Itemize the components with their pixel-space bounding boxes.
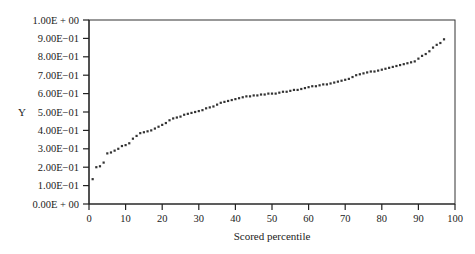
- data-point: [161, 124, 163, 126]
- data-point: [183, 114, 185, 116]
- x-tick-label: 0: [86, 213, 91, 224]
- data-point: [326, 83, 328, 85]
- y-tick-label: 9.00E−01: [38, 33, 79, 44]
- data-point: [179, 116, 181, 118]
- data-point: [128, 142, 130, 144]
- data-point: [172, 117, 174, 119]
- data-point: [443, 38, 445, 40]
- y-tick-label: 1.00E + 00: [33, 15, 79, 26]
- data-point: [106, 152, 108, 154]
- data-point: [377, 70, 379, 72]
- data-point: [381, 69, 383, 71]
- x-tick-label: 10: [120, 213, 131, 224]
- data-point: [194, 111, 196, 113]
- data-point: [216, 104, 218, 106]
- x-tick-label: 50: [267, 213, 278, 224]
- data-point: [267, 93, 269, 95]
- data-point: [95, 166, 97, 168]
- data-point: [264, 93, 266, 95]
- data-point: [271, 93, 273, 95]
- data-point: [410, 61, 412, 63]
- data-point: [311, 85, 313, 87]
- x-tick-label: 60: [303, 213, 314, 224]
- data-point: [198, 110, 200, 112]
- data-point: [362, 72, 364, 74]
- x-tick-label: 40: [230, 213, 241, 224]
- data-point: [92, 178, 94, 180]
- x-axis-title: Scored percentile: [234, 230, 311, 242]
- data-point: [201, 109, 203, 111]
- data-point: [154, 127, 156, 129]
- data-point: [395, 65, 397, 67]
- data-point: [384, 68, 386, 70]
- data-point: [348, 78, 350, 80]
- plot-frame: [89, 20, 455, 204]
- y-tick-label: 3.00E−01: [38, 143, 79, 154]
- x-tick-label: 70: [340, 213, 351, 224]
- data-point: [392, 66, 394, 68]
- data-point: [337, 81, 339, 83]
- data-point: [406, 62, 408, 64]
- data-point: [205, 107, 207, 109]
- data-point: [278, 92, 280, 94]
- data-point: [432, 47, 434, 49]
- data-point: [322, 83, 324, 85]
- data-point: [414, 60, 416, 62]
- data-point: [315, 85, 317, 87]
- data-point: [99, 165, 101, 167]
- data-point: [421, 55, 423, 57]
- x-tick-label: 20: [157, 213, 168, 224]
- data-point: [168, 119, 170, 121]
- y-tick-label: 6.00E−01: [38, 88, 79, 99]
- data-point: [139, 132, 141, 134]
- data-point: [190, 112, 192, 114]
- y-axis-title: Y: [18, 106, 26, 118]
- data-point: [333, 81, 335, 83]
- data-point: [304, 87, 306, 89]
- data-point: [165, 122, 167, 124]
- data-point: [300, 88, 302, 90]
- data-point: [121, 145, 123, 147]
- data-point: [344, 79, 346, 81]
- data-point: [125, 144, 127, 146]
- data-point: [146, 130, 148, 132]
- data-point: [417, 58, 419, 60]
- data-point: [157, 126, 159, 128]
- data-point: [282, 91, 284, 93]
- data-point: [212, 105, 214, 107]
- data-point: [373, 70, 375, 72]
- data-point: [220, 102, 222, 104]
- y-tick-label: 4.00E−01: [38, 125, 79, 136]
- y-tick-label: 8.00E−01: [38, 51, 79, 62]
- data-point: [399, 64, 401, 66]
- data-point: [289, 90, 291, 92]
- x-tick-label: 80: [377, 213, 388, 224]
- data-point: [340, 80, 342, 82]
- x-axis: 0102030405060708090100: [86, 204, 463, 224]
- data-point: [209, 106, 211, 108]
- data-point: [238, 97, 240, 99]
- data-point: [117, 148, 119, 150]
- data-point: [242, 96, 244, 98]
- data-point: [366, 71, 368, 73]
- data-point: [223, 101, 225, 103]
- data-point: [234, 98, 236, 100]
- data-point: [355, 74, 357, 76]
- scatter-chart: 0.00E + 001.00E−012.00E−013.00E−014.00E−…: [0, 0, 475, 254]
- data-point: [308, 86, 310, 88]
- data-point: [135, 135, 137, 137]
- data-point: [150, 129, 152, 131]
- y-tick-label: 1.00E−01: [38, 180, 79, 191]
- data-point: [176, 116, 178, 118]
- x-tick-label: 100: [447, 213, 463, 224]
- data-point: [275, 93, 277, 95]
- data-point: [245, 95, 247, 97]
- data-point: [132, 138, 134, 140]
- data-point: [370, 70, 372, 72]
- data-point: [359, 73, 361, 75]
- data-point: [231, 99, 233, 101]
- data-point: [436, 44, 438, 46]
- data-point: [329, 82, 331, 84]
- data-point: [114, 150, 116, 152]
- data-point: [286, 91, 288, 93]
